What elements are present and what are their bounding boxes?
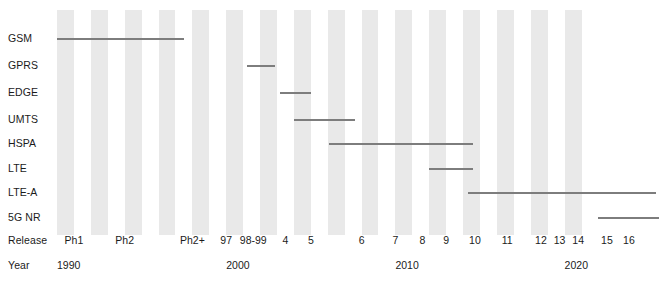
release-label-ph1: Ph1	[65, 234, 84, 246]
year-stripe	[395, 10, 412, 235]
row-label-gsm: GSM	[8, 32, 60, 44]
year-stripe	[463, 10, 480, 235]
tech-bar-lte	[429, 168, 473, 170]
year-tick-2010: 2010	[395, 259, 418, 271]
year-stripe	[362, 10, 379, 235]
release-label-6: 6	[359, 234, 365, 246]
row-label-umts: UMTS	[8, 113, 60, 125]
release-label-9: 9	[443, 234, 449, 246]
year-tick-2000: 2000	[226, 259, 249, 271]
release-label-14: 14	[572, 234, 584, 246]
tech-bar-lte-a	[468, 192, 656, 194]
year-stripe	[125, 10, 142, 235]
release-label-15: 15	[601, 234, 613, 246]
year-stripe	[192, 10, 209, 235]
release-label-12: 12	[535, 234, 547, 246]
release-label-16: 16	[623, 234, 635, 246]
year-stripe	[159, 10, 176, 235]
release-label-row: Ph1Ph2Ph2+9798-9945678910111213141516	[57, 234, 590, 248]
tech-bar-umts	[294, 119, 355, 121]
year-tick-1990: 1990	[57, 259, 80, 271]
row-label-edge: EDGE	[8, 86, 60, 98]
year-tick-2020: 2020	[565, 259, 588, 271]
row-label-hspa: HSPA	[8, 137, 60, 149]
release-label-ph2-: Ph2+	[180, 234, 205, 246]
row-label-5g-nr: 5G NR	[8, 211, 60, 223]
row-label-gprs: GPRS	[8, 59, 60, 71]
tech-bar-gprs	[247, 65, 276, 67]
tech-bar-hspa	[329, 143, 473, 145]
release-label-13: 13	[554, 234, 566, 246]
year-stripe	[226, 10, 243, 235]
release-label-98-99: 98-99	[240, 234, 267, 246]
release-label-97: 97	[220, 234, 232, 246]
row-label-lte-a: LTE-A	[8, 186, 60, 198]
release-label-4: 4	[283, 234, 289, 246]
release-label-7: 7	[392, 234, 398, 246]
tech-bar-gsm	[57, 38, 184, 40]
year-stripe	[531, 10, 548, 235]
year-stripe	[497, 10, 514, 235]
release-label-10: 10	[469, 234, 481, 246]
release-label-8: 8	[420, 234, 426, 246]
year-stripe	[294, 10, 311, 235]
year-stripe	[91, 10, 108, 235]
release-label-5: 5	[308, 234, 314, 246]
year-tick-row: 1990200020102020	[57, 259, 590, 273]
tech-bar-edge	[280, 92, 310, 94]
year-stripe	[260, 10, 277, 235]
release-label-11: 11	[502, 234, 513, 246]
row-label-lte: LTE	[8, 162, 60, 174]
year-stripe	[565, 10, 582, 235]
year-stripe	[328, 10, 345, 235]
release-label-ph2: Ph2	[115, 234, 134, 246]
year-stripe	[429, 10, 446, 235]
year-axis-label: Year	[8, 259, 60, 271]
plot-area	[57, 10, 590, 235]
tech-bar-5g-nr	[598, 217, 659, 219]
release-axis-label: Release	[8, 234, 60, 246]
